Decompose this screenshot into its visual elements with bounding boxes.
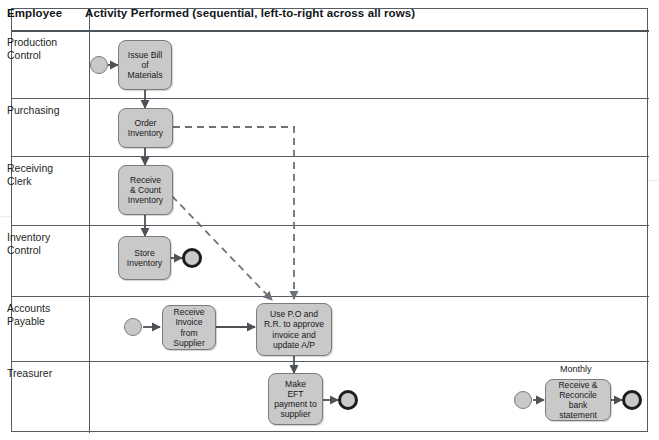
lane-label-accounts-payable: AccountsPayable — [7, 302, 77, 327]
lane-label-purchasing: Purchasing — [7, 104, 77, 117]
lane-separator-2 — [12, 156, 649, 157]
lane-label-production-control: ProductionControl — [7, 36, 77, 61]
node-approve-invoice-update-ap[interactable]: Use P.O andR.R. to approveinvoice andupd… — [256, 303, 332, 356]
column-header-employee: Employee — [7, 7, 62, 19]
node-receive-and-count-inventory-label: Receive& CountInventory — [128, 175, 163, 206]
swimlane-table — [11, 8, 648, 432]
node-make-eft-payment-label: MakeEFTpayment tosupplier — [274, 379, 317, 420]
swimlane-diagram: Employee Activity Performed (sequential,… — [0, 0, 659, 440]
lane-separator-3 — [12, 225, 649, 226]
header-separator — [12, 30, 649, 32]
lane-separator-1 — [12, 98, 649, 99]
node-order-inventory[interactable]: OrderInventory — [118, 108, 173, 148]
end-marker-treasurer-eft — [338, 390, 358, 410]
start-marker-accounts-payable — [124, 318, 142, 336]
node-order-inventory-label: OrderInventory — [128, 118, 163, 138]
node-issue-bill-of-materials-label: Issue BillofMaterials — [128, 50, 163, 81]
lane-label-receiving-clerk: Receiving Clerk — [7, 162, 77, 187]
node-receive-reconcile-bank-statement[interactable]: Receive &Reconcile bankstatement — [545, 379, 611, 421]
node-receive-invoice-from-supplier[interactable]: ReceiveInvoice fromSupplier — [162, 305, 216, 350]
start-marker-production-control — [90, 56, 108, 74]
annotation-monthly: Monthly — [560, 364, 592, 374]
node-receive-reconcile-bank-statement-label: Receive &Reconcile bankstatement — [549, 380, 607, 421]
column-header-activity: Activity Performed (sequential, left-to-… — [85, 7, 415, 19]
node-issue-bill-of-materials[interactable]: Issue BillofMaterials — [118, 40, 172, 90]
lane-label-treasurer: Treasurer — [7, 367, 77, 380]
node-store-inventory[interactable]: StoreInventory — [118, 236, 171, 280]
lane-separator-4 — [12, 296, 649, 297]
node-receive-and-count-inventory[interactable]: Receive& CountInventory — [118, 165, 173, 215]
node-make-eft-payment[interactable]: MakeEFTpayment tosupplier — [268, 373, 323, 425]
end-marker-inventory-control — [182, 248, 202, 268]
column-divider — [89, 9, 90, 433]
lane-label-inventory-control: InventoryControl — [7, 231, 77, 256]
end-marker-treasurer-monthly — [622, 390, 642, 410]
node-approve-invoice-update-ap-label: Use P.O andR.R. to approveinvoice andupd… — [264, 309, 324, 350]
start-marker-treasurer-monthly — [514, 391, 532, 409]
node-receive-invoice-from-supplier-label: ReceiveInvoice fromSupplier — [166, 307, 212, 348]
lane-separator-5 — [12, 361, 649, 362]
node-store-inventory-label: StoreInventory — [127, 248, 162, 268]
